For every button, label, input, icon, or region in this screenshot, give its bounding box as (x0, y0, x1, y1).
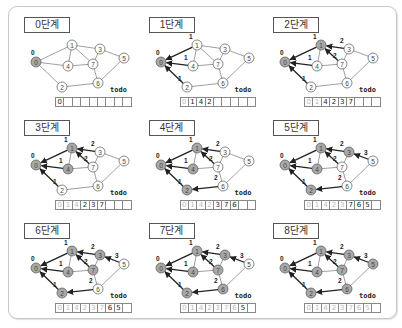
node-label: 5 (371, 261, 375, 268)
todo-cell (81, 97, 89, 107)
distance-label: 1 (178, 281, 182, 288)
distance-label: 1 (59, 157, 63, 164)
todo-cell (239, 200, 247, 210)
distance-label: 1 (59, 260, 63, 267)
todo-cell: 2 (206, 97, 214, 107)
todo-cell: 1 (64, 200, 72, 210)
distance-label: 2 (340, 37, 344, 44)
todo-cell: 0 (304, 97, 313, 107)
node-label: 4 (191, 63, 195, 70)
todo-cell: 5 (364, 303, 372, 313)
todo-cell: 6 (355, 200, 363, 210)
node-label: 3 (347, 252, 351, 259)
node-label: 7 (340, 267, 344, 274)
distance-label: 3 (240, 252, 244, 259)
todo-label: todo (110, 189, 127, 197)
todo-cell: 1 (189, 97, 197, 107)
distance-label: 2 (89, 277, 93, 284)
todo-cell: 3 (90, 200, 98, 210)
distance-label: 1 (302, 178, 306, 185)
distance-label: 2 (340, 140, 344, 147)
todo-cell (106, 200, 114, 210)
tree-arrow (192, 290, 218, 293)
distance-label: 2 (214, 174, 218, 181)
node-label: 1 (70, 145, 74, 152)
todo-cell: 1 (189, 303, 197, 313)
todo-cell (248, 200, 256, 210)
todo-cell (123, 97, 131, 107)
distance-label: 2 (338, 174, 342, 181)
tree-arrow (290, 47, 317, 60)
tree-arrow (326, 149, 344, 152)
todo-cell: 3 (90, 303, 98, 313)
todo-cell (231, 97, 239, 107)
todo-cell (115, 97, 123, 107)
graph-edge (347, 58, 373, 83)
todo-cell: 0 (180, 303, 189, 313)
node-label: 2 (60, 290, 64, 297)
distance-label: 3 (364, 149, 368, 156)
todo-label: todo (110, 86, 127, 94)
tree-arrow (316, 290, 342, 293)
todo-queue: 0142 (180, 97, 257, 107)
tree-arrow (166, 269, 188, 272)
node-label: 2 (185, 290, 189, 297)
todo-cell (239, 97, 247, 107)
todo-cell (248, 97, 256, 107)
distance-label: 1 (53, 281, 57, 288)
todo-cell: 0 (304, 303, 313, 313)
distance-label: 2 (333, 258, 337, 265)
distance-label: 2 (216, 243, 220, 250)
todo-cell (90, 97, 98, 107)
tree-arrow (77, 149, 95, 152)
todo-label: todo (359, 86, 376, 94)
todo-cell: 2 (81, 200, 89, 210)
todo-queue: 0142376 (180, 200, 257, 210)
todo-queue: 01423765 (304, 303, 381, 313)
todo-cell: 6 (231, 303, 239, 313)
todo-cell: 7 (347, 97, 355, 107)
todo-cell: 3 (214, 303, 222, 313)
todo-cell (73, 97, 81, 107)
tree-arrow (41, 150, 68, 163)
node-label: 6 (96, 183, 100, 190)
graph-edge (347, 264, 373, 289)
todo-cell: 4 (73, 303, 81, 313)
node-label: 3 (223, 149, 227, 156)
node-label: 3 (223, 46, 227, 53)
todo-cell: 4 (322, 97, 330, 107)
tree-arrow (166, 166, 188, 169)
node-label: 2 (309, 187, 313, 194)
tree-arrow (290, 269, 312, 272)
node-label: 6 (221, 80, 225, 87)
todo-cell: 1 (313, 97, 321, 107)
node-label: 0 (34, 265, 38, 272)
tree-arrow (165, 150, 192, 163)
graph-edge (347, 161, 373, 186)
node-label: 2 (60, 187, 64, 194)
graph-edge (36, 62, 62, 87)
tree-arrow (326, 252, 344, 255)
node-label: 1 (195, 42, 199, 49)
tree-arrow (290, 166, 312, 169)
tree-arrow (41, 253, 68, 266)
todo-cell: 7 (347, 200, 355, 210)
distance-label: 2 (216, 140, 220, 147)
todo-cell: 4 (322, 303, 330, 313)
node-label: 4 (66, 63, 70, 70)
todo-cell (64, 97, 72, 107)
todo-cell: 7 (222, 303, 230, 313)
stage-panel: 6단계0011213241536272todo01423765 (8, 212, 132, 314)
distance-label: 1 (302, 281, 306, 288)
distance-label: 0 (280, 255, 284, 262)
graph-edge (311, 83, 347, 87)
node-label: 4 (191, 166, 195, 173)
tree-arrow (192, 187, 218, 190)
todo-cell: 1 (64, 303, 72, 313)
todo-cell (222, 97, 230, 107)
tree-arrow (165, 253, 192, 266)
distance-label: 2 (209, 155, 213, 162)
node-label: 6 (96, 286, 100, 293)
graph-edge (62, 83, 98, 87)
todo-queue: 014237 (55, 200, 132, 210)
